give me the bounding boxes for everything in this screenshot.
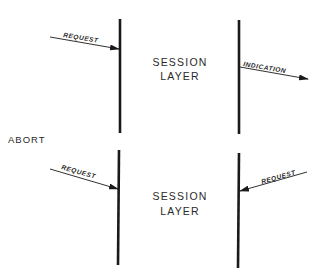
top-panel: REQUEST INDICATION SESSION LAYER	[50, 19, 308, 134]
bottom-left-boundary-line	[118, 150, 119, 265]
bottom-right-boundary-line	[238, 153, 239, 268]
abort-label: ABORT	[8, 134, 46, 145]
bottom-right-request-label: REQUEST	[260, 168, 297, 186]
top-right-indication-label: INDICATION	[243, 60, 287, 74]
bottom-left-request-label: REQUEST	[60, 163, 97, 181]
bottom-layer-label-line1: SESSION	[152, 190, 207, 202]
top-layer-label-line1: SESSION	[152, 56, 207, 68]
bottom-layer-label-line2: LAYER	[160, 205, 200, 217]
session-layer-abort-diagram: REQUEST INDICATION SESSION LAYER ABORT R…	[0, 0, 323, 279]
bottom-panel: REQUEST REQUEST SESSION LAYER	[50, 150, 307, 268]
top-layer-label-line2: LAYER	[160, 70, 200, 82]
